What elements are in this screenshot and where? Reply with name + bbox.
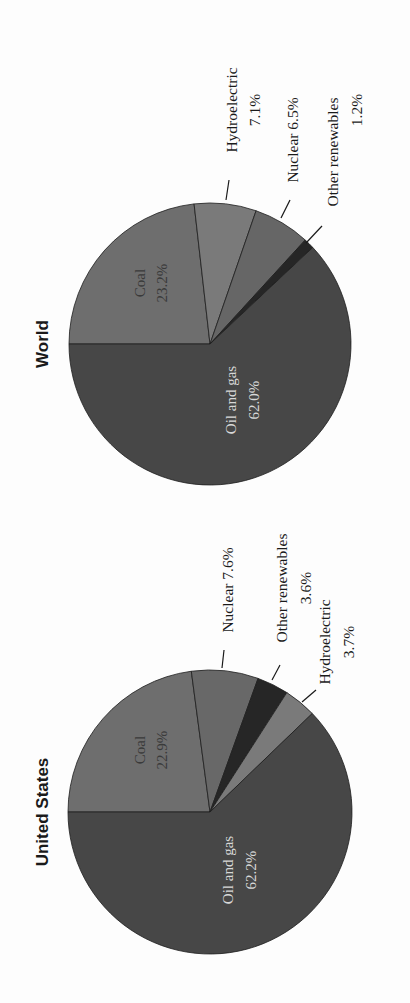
world-hydro-value: 7.1%: [246, 94, 263, 126]
world-nuclear-label: Nuclear 6.5%: [284, 97, 301, 182]
world-title: World: [33, 320, 52, 368]
us-chart: United States Coal 22.9% Oil and gas 62.…: [33, 534, 357, 954]
world-other-label: Other renewables: [324, 98, 341, 207]
us-other-label: Other renewables: [273, 534, 290, 643]
us-hydro-value: 3.7%: [340, 626, 357, 658]
us-nuclear-leader: [222, 650, 224, 668]
chart-canvas: World Coal 23.2% Oil and gas 62.0% Hydro…: [0, 0, 410, 1003]
us-pie: [68, 670, 352, 954]
us-nuclear-label: Nuclear 7.6%: [219, 547, 236, 632]
us-other-leader: [272, 665, 280, 680]
world-hydro-label: Hydroelectric: [223, 67, 240, 152]
world-oil-label: Oil and gas: [223, 366, 239, 434]
world-oil-value: 62.0%: [246, 381, 262, 420]
us-title: United States: [33, 758, 52, 867]
world-hydro-leader: [226, 180, 229, 200]
world-coal-label: Coal: [132, 269, 148, 297]
world-nuclear-leader: [281, 200, 290, 218]
us-oil-label: Oil and gas: [220, 836, 236, 904]
us-hydro-leader: [302, 690, 316, 702]
us-hydro-label: Hydroelectric: [316, 599, 333, 684]
world-other-leader: [306, 226, 322, 243]
us-oil-value: 62.2%: [243, 851, 259, 890]
world-other-value: 1.2%: [348, 94, 365, 126]
us-coal-label: Coal: [132, 736, 148, 764]
us-coal-value: 22.9%: [154, 731, 170, 770]
world-chart: World Coal 23.2% Oil and gas 62.0% Hydro…: [33, 67, 365, 485]
world-pie: [69, 203, 351, 485]
world-coal-value: 23.2%: [154, 264, 170, 303]
us-other-value: 3.6%: [297, 572, 314, 604]
